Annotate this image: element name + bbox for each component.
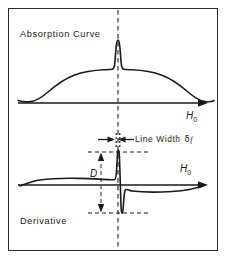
derivative-curve-trace: [20, 150, 203, 213]
line-width-text: Line Width: [135, 134, 181, 144]
absorption-axis: [18, 99, 208, 106]
axis-subscript-zero: 0: [187, 169, 191, 176]
figure-container: Absorption Curve Derivative Line Widthδf…: [0, 0, 230, 261]
derivative-label: Derivative: [20, 216, 67, 226]
absorption-curve-label: Absorption Curve: [20, 29, 101, 39]
amplitude-double-arrow: [98, 153, 104, 213]
derivative-axis-label: H0: [180, 163, 191, 176]
absorption-curve-trace: [18, 40, 214, 102]
axis-subscript-zero: 0: [193, 116, 197, 123]
amplitude-label: D: [90, 168, 97, 179]
frequency-symbol: f: [190, 135, 193, 144]
absorption-axis-label: H0: [186, 110, 197, 123]
line-width-label: Line Widthδf: [135, 134, 193, 144]
line-width-left-arrow: [98, 137, 115, 143]
derivative-axis: [18, 181, 208, 188]
